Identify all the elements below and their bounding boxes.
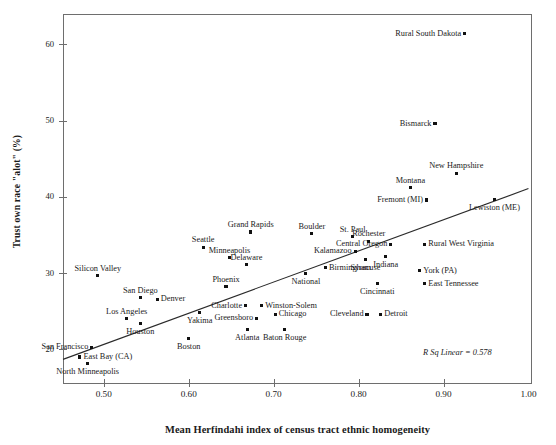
x-tick-mark <box>359 379 360 387</box>
data-point <box>463 32 466 35</box>
data-point-label: Houston <box>126 328 154 336</box>
data-point-label: National <box>292 278 321 286</box>
data-point <box>187 337 190 340</box>
data-point <box>139 296 142 299</box>
data-point-label: Detroit <box>384 310 408 318</box>
data-point-label: Seattle <box>192 236 215 244</box>
data-point-label: Fremont (MI) <box>377 196 423 204</box>
r-squared-annotation: R Sq Linear = 0.578 <box>423 348 492 357</box>
y-tick-mark <box>59 121 67 122</box>
x-tick-label: 0.80 <box>339 390 379 399</box>
plot-frame-right <box>531 14 532 384</box>
data-point <box>425 198 428 201</box>
y-tick-label: 40 <box>36 192 54 201</box>
x-tick-mark <box>189 379 190 387</box>
data-point-label: Atlanta <box>235 334 259 342</box>
data-point-label: East Tennessee <box>428 280 478 288</box>
data-point-label: Los Angeles <box>106 308 147 316</box>
data-point-label: Rural South Dakota <box>395 30 461 38</box>
data-point-label: Kalamazoo <box>314 247 352 255</box>
data-point-label: Cincinnati <box>360 288 395 296</box>
data-point-label: Silicon Valley <box>74 265 121 273</box>
data-point <box>389 243 392 246</box>
data-point-label: Grand Rapids <box>228 221 274 229</box>
data-point <box>249 230 252 233</box>
data-point-label: Boston <box>177 343 201 351</box>
data-point <box>418 269 421 272</box>
data-point <box>202 246 205 249</box>
data-point <box>86 362 89 365</box>
data-point-label: Boulder <box>298 223 325 231</box>
x-tick-label: 0.50 <box>84 390 124 399</box>
y-tick-mark <box>59 273 67 274</box>
data-point-label: Baton Rouge <box>263 334 307 342</box>
x-tick-label: 0.60 <box>169 390 209 399</box>
data-point <box>246 328 249 331</box>
data-point <box>493 198 496 201</box>
y-tick-label: 60 <box>36 40 54 49</box>
data-point <box>423 243 426 246</box>
data-point <box>139 322 142 325</box>
y-axis-title: Trust own race "alot" (%) <box>11 82 22 302</box>
data-point <box>354 250 357 253</box>
data-point <box>90 346 93 349</box>
data-point <box>423 282 426 285</box>
data-point-label: Lewiston (ME) <box>469 204 520 212</box>
data-point <box>78 355 81 358</box>
plot-frame-top <box>63 14 532 15</box>
x-tick-label: 0.70 <box>254 390 294 399</box>
data-point <box>304 272 307 275</box>
x-tick-mark <box>274 379 275 387</box>
data-point-label: Chicago <box>279 310 307 318</box>
x-tick-label: 1.00 <box>508 390 548 399</box>
data-point <box>376 282 379 285</box>
data-point <box>125 317 128 320</box>
data-point <box>433 122 436 125</box>
x-axis-title: Mean Herfindahi index of census tract et… <box>63 424 532 435</box>
data-point-label: Rochester <box>352 230 385 238</box>
data-point-label: North Minneapolis <box>56 368 119 376</box>
data-point-label: Montana <box>396 177 426 185</box>
data-point-label: Delaware <box>231 254 263 262</box>
data-point <box>156 298 159 301</box>
data-point-label: Indiana <box>373 261 398 269</box>
data-point <box>365 313 368 316</box>
data-point <box>96 274 99 277</box>
x-tick-label: 0.90 <box>424 390 464 399</box>
data-point <box>260 304 263 307</box>
data-point <box>379 313 382 316</box>
data-point-label: Birmingham <box>329 264 371 272</box>
data-point-label: Rural West Virginia <box>428 240 494 248</box>
data-point-label: Denver <box>161 295 185 303</box>
data-point <box>274 313 277 316</box>
data-point-label: Charlotte <box>211 302 242 310</box>
data-point <box>283 328 286 331</box>
data-point <box>409 186 412 189</box>
data-point-label: Greensboro <box>214 314 253 322</box>
data-point <box>384 255 387 258</box>
data-point <box>324 266 327 269</box>
data-point <box>245 263 248 266</box>
data-point <box>255 317 258 320</box>
scatter-plot-figure: Trust own race "alot" (%) Mean Herfindah… <box>0 0 556 445</box>
data-point-label: San Diego <box>123 287 158 295</box>
data-point-label: San Francisco <box>42 343 89 351</box>
data-point-label: Bismarck <box>400 120 432 128</box>
data-point <box>198 311 201 314</box>
y-tick-mark <box>59 44 67 45</box>
data-point-label: Cleveland <box>330 310 364 318</box>
y-tick-label: 30 <box>36 269 54 278</box>
data-point-label: Phoenix <box>212 276 239 284</box>
y-tick-mark <box>59 197 67 198</box>
x-tick-mark <box>104 379 105 387</box>
data-point <box>455 172 458 175</box>
data-point <box>244 304 247 307</box>
y-tick-label: 50 <box>36 116 54 125</box>
data-point <box>224 285 227 288</box>
data-point-label: East Bay (CA) <box>83 353 132 361</box>
data-point <box>364 258 367 261</box>
data-point-label: York (PA) <box>423 267 457 275</box>
data-point-label: New Hampshire <box>429 162 483 170</box>
x-tick-mark <box>444 379 445 387</box>
data-point <box>310 232 313 235</box>
